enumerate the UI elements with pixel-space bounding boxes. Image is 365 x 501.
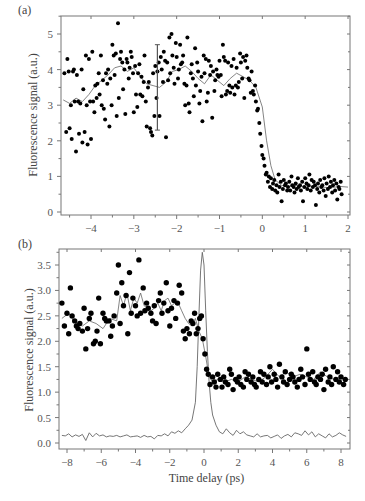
data-point (135, 105, 139, 109)
data-point (332, 178, 336, 182)
data-point (296, 176, 300, 180)
data-point (92, 110, 96, 114)
data-point (250, 69, 254, 73)
data-point (190, 62, 194, 66)
data-point (197, 101, 201, 105)
data-point (312, 180, 316, 184)
data-point (290, 374, 295, 379)
data-point (218, 59, 222, 63)
data-point (206, 91, 210, 95)
data-point (134, 93, 138, 97)
data-point (254, 384, 259, 389)
data-point (335, 198, 339, 202)
data-point (181, 53, 185, 57)
data-point (156, 298, 161, 303)
data-point (69, 313, 74, 318)
data-point (265, 171, 269, 175)
data-point (207, 59, 211, 63)
data-point (228, 91, 232, 95)
data-point (205, 100, 209, 104)
data-point (85, 103, 89, 107)
y-tick-label: 2.5 (37, 310, 51, 322)
data-point (327, 174, 331, 178)
data-point (74, 150, 78, 154)
data-point (204, 367, 209, 372)
data-point (88, 311, 93, 316)
data-point (275, 384, 280, 389)
data-point (123, 112, 127, 116)
data-point (115, 114, 119, 118)
data-point (185, 36, 189, 40)
data-point (129, 50, 133, 54)
data-point (277, 173, 281, 177)
data-point (212, 89, 216, 93)
data-point (264, 382, 269, 387)
data-point (121, 303, 126, 308)
data-point (272, 178, 276, 182)
data-point (183, 336, 188, 341)
data-point (282, 178, 286, 182)
data-point (211, 69, 215, 73)
data-point (304, 346, 309, 351)
data-point (199, 313, 204, 318)
data-point (95, 82, 99, 86)
data-point (184, 326, 189, 331)
data-point (165, 61, 169, 65)
data-point (189, 71, 193, 75)
data-point (98, 93, 102, 97)
data-point (69, 103, 73, 107)
data-point (128, 66, 132, 70)
data-point (80, 328, 85, 333)
data-point (164, 280, 169, 285)
x-tick-label: 1 (302, 222, 308, 234)
data-point (287, 180, 291, 184)
data-point (305, 187, 309, 191)
data-point (241, 55, 245, 59)
data-point (75, 73, 79, 77)
data-point (90, 50, 94, 54)
data-point (257, 121, 261, 125)
data-point (152, 303, 157, 308)
data-point (153, 321, 158, 326)
data-point (209, 64, 213, 68)
data-point (219, 73, 223, 77)
data-point (106, 68, 110, 72)
data-point (343, 0, 347, 2)
data-point (173, 82, 177, 86)
data-point (241, 384, 246, 389)
data-point (299, 189, 303, 193)
data-point (114, 290, 119, 295)
data-point (222, 55, 226, 59)
data-point (317, 190, 321, 194)
data-point (96, 295, 101, 300)
data-point (307, 173, 311, 177)
data-point (119, 280, 124, 285)
y-tick-label: 5 (48, 28, 54, 40)
y-tick-label: 3.0 (37, 284, 51, 296)
data-point (143, 53, 147, 57)
data-point (208, 73, 212, 77)
data-point (150, 134, 154, 138)
data-point (101, 78, 105, 82)
data-point (281, 187, 285, 191)
data-point (221, 374, 226, 379)
data-point (221, 43, 225, 47)
data-point (301, 199, 305, 203)
data-point (295, 384, 300, 389)
data-point (271, 182, 275, 186)
y-tick-label: 1.0 (37, 386, 51, 398)
data-point (298, 183, 302, 187)
plot-area (62, 0, 350, 207)
data-point (174, 41, 178, 45)
data-point (213, 384, 218, 389)
data-point (68, 285, 73, 290)
data-point (136, 257, 141, 262)
data-point (132, 110, 136, 114)
data-point (129, 311, 134, 316)
data-point (238, 52, 242, 56)
data-point (245, 66, 249, 70)
data-point (196, 69, 200, 73)
data-point (153, 64, 157, 68)
data-point (170, 53, 174, 57)
y-tick-label: 3.5 (37, 259, 51, 271)
